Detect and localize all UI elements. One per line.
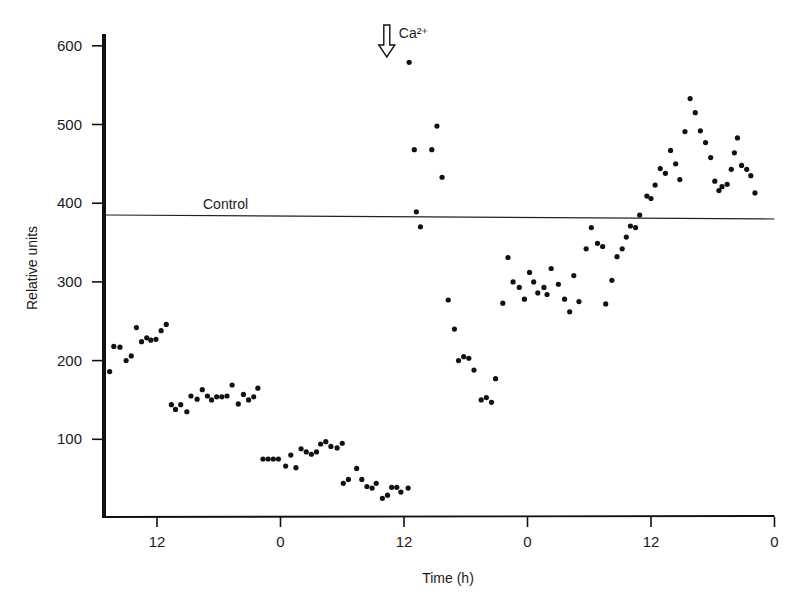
data-point <box>394 485 399 490</box>
data-point <box>241 392 246 397</box>
data-point <box>735 135 740 140</box>
data-point <box>205 393 210 398</box>
data-point <box>484 395 489 400</box>
x-tick-label: 12 <box>149 533 166 550</box>
data-point <box>620 246 625 251</box>
data-point <box>117 345 122 350</box>
ca2-addition-annotation: Ca²⁺ <box>379 25 429 57</box>
data-point <box>541 285 546 290</box>
control-reference-line: Control <box>106 196 775 219</box>
data-point <box>556 282 561 287</box>
data-point <box>461 354 466 359</box>
data-point <box>471 367 476 372</box>
data-point <box>584 246 589 251</box>
data-point <box>446 297 451 302</box>
y-tick-label: 100 <box>57 430 82 447</box>
data-point <box>230 382 235 387</box>
data-point <box>439 175 444 180</box>
x-axis-title: Time (h) <box>422 570 474 586</box>
y-axis-title: Relative units <box>24 226 40 310</box>
data-point <box>271 456 276 461</box>
data-point <box>648 196 653 201</box>
data-point <box>340 441 345 446</box>
data-point <box>407 60 412 65</box>
data-point <box>535 290 540 295</box>
data-point <box>214 394 219 399</box>
data-point <box>744 167 749 172</box>
data-point <box>323 439 328 444</box>
data-point <box>603 301 608 306</box>
data-point <box>380 496 385 501</box>
data-point <box>173 407 178 412</box>
data-point <box>148 338 153 343</box>
data-point <box>236 401 241 406</box>
data-point <box>493 376 498 381</box>
data-point <box>719 184 724 189</box>
data-point <box>200 387 205 392</box>
x-axis: 120120120 <box>102 516 779 550</box>
data-point <box>318 441 323 446</box>
data-point <box>111 344 116 349</box>
data-point <box>452 327 457 332</box>
data-point <box>703 140 708 145</box>
y-tick-label: 500 <box>57 116 82 133</box>
data-point <box>298 446 303 451</box>
data-point <box>328 444 333 449</box>
data-point <box>164 322 169 327</box>
data-point <box>304 449 309 454</box>
x-tick-label: 0 <box>523 533 531 550</box>
y-axis: 100200300400500600 <box>57 34 104 517</box>
data-point <box>614 254 619 259</box>
data-point <box>219 394 224 399</box>
data-point <box>739 163 744 168</box>
data-point <box>589 225 594 230</box>
data-point <box>346 477 351 482</box>
data-point <box>389 485 394 490</box>
data-point <box>489 400 494 405</box>
data-point <box>251 394 256 399</box>
data-point <box>688 96 693 101</box>
data-point <box>500 301 505 306</box>
data-point <box>522 297 527 302</box>
y-tick-label: 300 <box>57 273 82 290</box>
data-point <box>283 463 288 468</box>
data-point <box>609 278 614 283</box>
data-point <box>293 465 298 470</box>
data-point <box>712 179 717 184</box>
data-point <box>677 177 682 182</box>
data-point <box>466 356 471 361</box>
data-point <box>668 148 673 153</box>
data-point <box>693 110 698 115</box>
data-point <box>153 337 158 342</box>
data-point <box>708 155 713 160</box>
data-point <box>531 279 536 284</box>
data-point <box>369 485 374 490</box>
data-point <box>288 452 293 457</box>
ca2-label: Ca²⁺ <box>399 25 429 41</box>
data-point <box>595 241 600 246</box>
data-point <box>571 273 576 278</box>
data-point <box>309 452 314 457</box>
data-point <box>224 393 229 398</box>
data-point <box>159 328 164 333</box>
data-point <box>129 353 134 358</box>
data-point <box>434 123 439 128</box>
data-point <box>456 358 461 363</box>
data-point <box>549 266 554 271</box>
data-point <box>255 386 260 391</box>
data-point <box>139 339 144 344</box>
data-point <box>398 489 403 494</box>
data-point <box>276 456 281 461</box>
data-point <box>341 481 346 486</box>
data-point <box>633 225 638 230</box>
data-point <box>124 358 129 363</box>
data-point <box>698 128 703 133</box>
data-point <box>576 299 581 304</box>
y-tick-label: 200 <box>57 352 82 369</box>
data-point <box>544 292 549 297</box>
data-point <box>414 209 419 214</box>
data-point <box>732 150 737 155</box>
data-points <box>107 60 757 501</box>
data-point <box>682 129 687 134</box>
data-point <box>510 279 515 284</box>
